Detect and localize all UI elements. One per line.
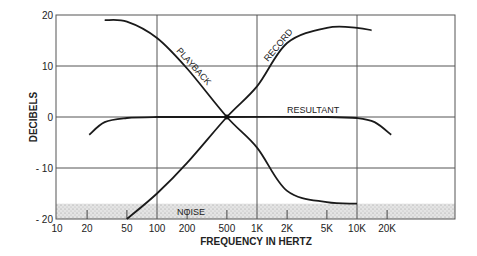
y-tick-label: - 10 bbox=[36, 163, 54, 174]
y-tick-label: - 20 bbox=[36, 214, 54, 225]
x-tick-label: 50 bbox=[121, 223, 133, 234]
x-tick-label: 20K bbox=[378, 223, 396, 234]
x-tick-label: 10K bbox=[348, 223, 366, 234]
x-tick-label: 100 bbox=[149, 223, 166, 234]
curves bbox=[89, 20, 391, 219]
x-axis-label: FREQUENCY IN HERTZ bbox=[200, 236, 312, 247]
x-tick-label: 2K bbox=[281, 223, 294, 234]
x-tick-label: 20 bbox=[82, 223, 94, 234]
chart-container: 1020501002005001K2K5K10K20K20100- 10- 20… bbox=[0, 0, 477, 256]
y-tick-label: 10 bbox=[42, 61, 54, 72]
noise-band bbox=[56, 204, 455, 219]
y-tick-label: 20 bbox=[42, 10, 54, 21]
noise-region bbox=[56, 204, 455, 219]
y-tick-label: 0 bbox=[47, 112, 53, 123]
resultant-label: RESULTANT bbox=[287, 105, 340, 115]
x-tick-label: 1K bbox=[251, 223, 264, 234]
x-tick-label: 5K bbox=[321, 223, 334, 234]
y-axis-label: DECIBELS bbox=[28, 91, 39, 142]
record-label: RECORD bbox=[262, 27, 295, 64]
x-tick-label: 500 bbox=[219, 223, 236, 234]
resultant-curve bbox=[89, 117, 391, 135]
crossover-point bbox=[224, 115, 229, 120]
noise-label: NOISE bbox=[177, 207, 205, 217]
axis-ticks: 1020501002005001K2K5K10K20K20100- 10- 20 bbox=[36, 10, 397, 234]
chart-svg: 1020501002005001K2K5K10K20K20100- 10- 20… bbox=[0, 0, 477, 256]
x-tick-label: 200 bbox=[179, 223, 196, 234]
record-curve bbox=[127, 27, 372, 219]
x-tick-label: 10 bbox=[51, 223, 63, 234]
